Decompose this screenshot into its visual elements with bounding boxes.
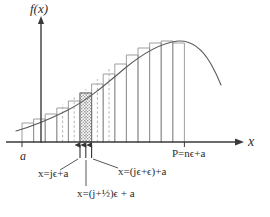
left-tick-label: x=jϵ+a (38, 168, 68, 179)
right-tick-label: x=(jϵ+ϵ)+a (118, 166, 166, 177)
y-axis-label: f(x) (30, 2, 48, 15)
center-tick-label: x=(j+½)ϵ + a (77, 188, 135, 199)
origin-label-a: a (20, 150, 26, 162)
x-axis-label: x (248, 135, 254, 149)
riemann-sum-figure (0, 0, 270, 217)
right-endpoint-label: P=nϵ+a (172, 148, 205, 159)
